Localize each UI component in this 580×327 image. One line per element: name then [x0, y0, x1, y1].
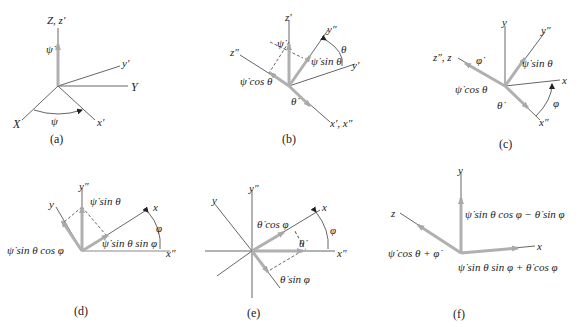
label-omega-y: ψ̇ sin θ cos φ − θ̇ sin φ — [465, 209, 565, 220]
label-phi-angle: φ — [330, 225, 336, 236]
label-x-dprime: x″ — [539, 117, 548, 128]
caption-d: (d) — [74, 305, 88, 317]
label-omega-x: ψ̇ sin θ sin φ + θ̇ cos φ — [458, 262, 558, 273]
label-psi-sin-theta: ψ̇ sin θ — [90, 196, 121, 207]
label-x: x — [537, 241, 542, 252]
label-y-dprime: y″ — [249, 183, 258, 194]
panel-c — [458, 26, 560, 120]
label-psi-cos-theta: ψ̇ cos θ — [455, 84, 487, 95]
label-y-dprime: y″ — [79, 181, 88, 192]
label-y-dprime: y″ — [327, 24, 336, 35]
label-x-prime: x′ — [97, 117, 104, 128]
label-z: z — [391, 208, 395, 219]
label-z-axis: Z, z′ — [47, 15, 65, 26]
label-Y: Y — [131, 81, 138, 93]
label-phi-angle: φ — [553, 98, 559, 109]
label-z-prime: z′ — [285, 12, 292, 23]
label-psi-sin-theta: ψ̇ sin θ — [522, 58, 553, 69]
label-z-dprime: z″ — [230, 47, 239, 58]
label-theta-angle: θ — [341, 44, 346, 55]
label-psi-dot: ψ̇ — [277, 38, 284, 49]
label-psi-sin-theta-sin-phi: ψ̇ sin θ sin φ — [102, 238, 157, 249]
caption-a: (a) — [50, 133, 63, 145]
label-phi-dot: φ̇ — [476, 55, 482, 66]
label-psi-angle: ψ — [51, 116, 58, 127]
label-X: X — [13, 118, 20, 130]
label-x-prime-dprime: x′, x″ — [330, 118, 352, 129]
label-theta-dot: θ̇ — [497, 100, 502, 111]
panel-b — [240, 20, 355, 122]
label-x-dprime: x″ — [337, 248, 346, 259]
label-y: y — [458, 165, 463, 176]
label-y: y — [502, 17, 507, 28]
label-psi-sin-theta: ψ̇ sin θ — [311, 56, 342, 67]
label-theta-dot: θ̇ — [291, 96, 296, 107]
label-psi-sin-theta-cos-phi: ψ̇ sin θ cos φ — [7, 245, 64, 256]
label-y: y — [212, 195, 217, 206]
label-psi-cos-theta: ψ̇ cos θ — [240, 76, 272, 87]
label-psi-dot: ψ̇ — [46, 44, 53, 55]
label-x-dprime: x″ — [166, 248, 175, 259]
label-y: y — [49, 199, 54, 210]
caption-c: (c) — [499, 138, 512, 150]
label-theta-dot-cos-phi: θ̇ cos φ — [257, 219, 289, 230]
caption-e: (e) — [247, 307, 260, 319]
panel-a — [22, 28, 128, 120]
label-phi-angle: φ — [156, 223, 162, 234]
caption-b: (b) — [282, 133, 296, 145]
label-z-dprime-z: z″, z — [433, 52, 452, 63]
label-x: x — [562, 75, 567, 86]
label-y-prime: y′ — [122, 58, 129, 69]
label-y-dprime: y″ — [541, 25, 550, 36]
label-theta-dot-sin-phi: θ̇ sin φ — [280, 274, 310, 285]
label-x: x — [322, 202, 327, 213]
label-theta-dot: θ̇ — [299, 238, 304, 249]
caption-f: (f) — [453, 308, 465, 320]
label-x: x — [153, 202, 158, 213]
label-y-prime: y′ — [352, 60, 359, 71]
panel-e — [205, 190, 335, 298]
label-omega-z: ψ̇ cos θ + φ̇ — [388, 248, 439, 259]
